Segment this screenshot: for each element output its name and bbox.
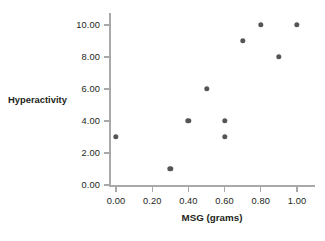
x-axis-title: MSG (grams) [109,212,315,224]
y-axis-line [109,13,111,186]
x-tick-mark [260,186,261,192]
y-tick-mark [104,120,110,121]
y-tick-mark [104,24,110,25]
plot-area: 0.002.004.006.008.0010.00 0.000.200.400.… [0,0,325,241]
data-point [222,118,227,123]
x-axis-line [109,185,315,187]
x-tick-mark [188,186,189,192]
y-axis-title: Hyperactivity [8,94,67,105]
y-tick-label: 8.00 [0,52,100,62]
y-tick-label: 10.00 [0,20,100,30]
y-tick-mark [104,56,110,57]
x-tick-mark [296,186,297,192]
x-tick-label: 1.00 [275,196,319,206]
data-point [168,166,173,171]
data-point [204,86,209,91]
scatter-plot-figure: 0.002.004.006.008.0010.00 0.000.200.400.… [0,0,325,241]
data-point [222,134,227,139]
y-tick-label: 2.00 [0,148,100,158]
data-point [294,22,299,27]
y-tick-label: 0.00 [0,180,100,190]
y-tick-label: 4.00 [0,116,100,126]
x-tick-mark [152,186,153,192]
data-point [276,54,281,59]
x-tick-mark [115,186,116,192]
data-point [240,38,245,43]
y-tick-mark [104,184,110,185]
y-tick-mark [104,88,110,89]
data-point [258,22,263,27]
data-point [186,118,191,123]
y-tick-label: 6.00 [0,84,100,94]
data-point [113,134,118,139]
y-tick-mark [104,152,110,153]
x-tick-mark [224,186,225,192]
